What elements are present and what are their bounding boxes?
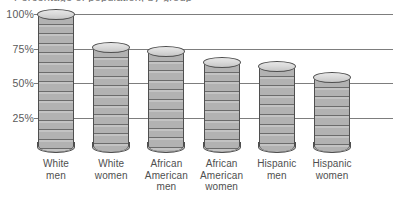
xaxis-label-african-american-men: AfricanAmericanmen	[135, 158, 197, 193]
bar-hispanic-men	[259, 61, 295, 152]
cylinder-top-ellipse	[37, 9, 75, 20]
bar-hispanic-women	[314, 72, 350, 152]
ytick-label-25: 25%	[0, 112, 34, 124]
gridline-75	[38, 49, 393, 50]
gridline-100	[38, 14, 393, 15]
bar-white-men	[38, 9, 74, 152]
xaxis-label-hispanic-women: Hispanicwomen	[301, 158, 363, 181]
xaxis-label-hispanic-men: Hispanicmen	[246, 158, 308, 181]
plot-area: 100% 75% 50% 25%	[0, 0, 398, 201]
bar-african-american-women	[204, 57, 240, 152]
ytick-label-100: 100%	[0, 8, 34, 20]
cylinder-body	[259, 66, 295, 152]
ytick-label-50: 50%	[0, 77, 34, 89]
xaxis-label-african-american-women: AfricanAmericanwomen	[191, 158, 253, 193]
cylinder-body	[314, 77, 350, 152]
xaxis-label-white-women: Whitewomen	[80, 158, 142, 181]
chart-root: Percentage of population, by group 100% …	[0, 0, 398, 201]
cylinder-body	[38, 14, 74, 152]
ytick-label-75: 75%	[0, 43, 34, 55]
cylinder-body	[148, 51, 184, 152]
xaxis-label-white-men: Whitemen	[25, 158, 87, 181]
cylinder-body	[93, 47, 129, 152]
bar-white-women	[93, 42, 129, 152]
bar-african-american-men	[148, 46, 184, 152]
cylinder-body	[204, 62, 240, 152]
